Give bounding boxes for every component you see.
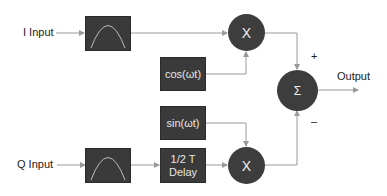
cos-label: cos(ωt) bbox=[165, 68, 201, 81]
multiply-icon: X bbox=[242, 25, 251, 41]
i-input-label: I Input bbox=[23, 26, 54, 38]
minus-sign: – bbox=[311, 115, 317, 127]
output-label: Output bbox=[337, 70, 370, 82]
q-filter-block bbox=[85, 148, 131, 183]
delay-block: 1/2 T Delay bbox=[160, 148, 206, 183]
sin-label: sin(ωt) bbox=[166, 117, 199, 130]
filter-icon bbox=[86, 149, 130, 182]
sin-oscillator-block: sin(ωt) bbox=[160, 106, 206, 140]
delay-label-line2: Delay bbox=[169, 166, 197, 179]
cos-oscillator-block: cos(ωt) bbox=[160, 57, 206, 91]
i-filter-block bbox=[85, 16, 131, 51]
bottom-multiplier: X bbox=[228, 147, 265, 184]
filter-icon bbox=[86, 17, 130, 50]
multiply-icon: X bbox=[242, 158, 251, 174]
sigma-icon: Σ bbox=[294, 84, 301, 98]
iq-diagram: I Input Q Input cos(ωt) sin(ωt) 1/2 T De… bbox=[0, 0, 387, 196]
plus-sign: + bbox=[311, 50, 317, 62]
summer-node: Σ bbox=[277, 70, 318, 111]
delay-label-line1: 1/2 T bbox=[171, 153, 196, 166]
q-input-label: Q Input bbox=[17, 158, 53, 170]
top-multiplier: X bbox=[228, 14, 265, 51]
